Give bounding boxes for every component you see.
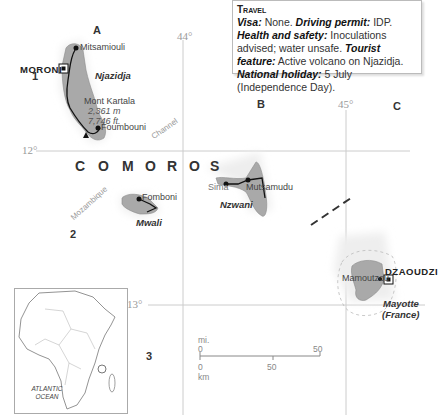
grid-col-c: C: [393, 100, 401, 112]
island-label-mwali: Mwali: [136, 217, 162, 228]
longitude-45-label: 45°: [338, 98, 353, 110]
country-label-o3: O: [189, 158, 200, 174]
scale-km-fifty: 50: [267, 362, 276, 372]
driving-permit-value: IDP.: [370, 16, 392, 28]
grid-row-3: 3: [146, 350, 152, 362]
peak-elevation-ft: 7,746 ft.: [88, 116, 121, 126]
scale-mi-zero: 0: [198, 344, 203, 354]
comoros-locator-circle: [98, 365, 106, 373]
visa-label: Visa:: [237, 16, 262, 28]
capital-label-dzaoudzi: DZAOUDZI: [385, 266, 438, 277]
island-label-mayotte: Mayotte: [383, 298, 419, 309]
scale-km-unit: km: [198, 372, 209, 382]
grid-col-b: B: [257, 98, 265, 110]
peak-label-mont-kartala: Mont Kartala: [84, 96, 135, 106]
town-label-mutsamudu: Mutsamudu: [246, 182, 293, 192]
island-label-mayotte-note: (France): [382, 309, 419, 320]
health-safety-label: Health and safety:: [237, 29, 327, 41]
country-label-o2: O: [145, 158, 156, 174]
island-label-nzwani: Nzwani: [220, 199, 253, 210]
town-label-sima: Sima: [208, 182, 229, 192]
capital-label-moroni: MORONI: [20, 64, 62, 75]
inset-ocean-label: ATLANTIC OCEAN: [27, 385, 67, 401]
grid-row-2: 2: [70, 228, 76, 240]
latitude-12-label: 12°: [22, 144, 37, 156]
grid-col-a: A: [93, 24, 101, 36]
island-label-njazidja: Njazidja: [95, 70, 131, 81]
country-label-o1: O: [98, 158, 109, 174]
town-label-mitsamiouli: Mitsamiouli: [80, 42, 125, 52]
town-label-mamoutzou: Mamoutzou: [342, 273, 389, 283]
scale-km-zero: 0: [198, 362, 203, 372]
tourist-feature-value: Active volcano on Njazidja.: [276, 55, 404, 67]
visa-value: None.: [262, 16, 296, 28]
country-label-s: S: [210, 158, 219, 174]
travel-info-box: Travel Visa: None. Driving permit: IDP. …: [232, 0, 422, 74]
africa-locator-inset: ATLANTIC OCEAN: [14, 288, 128, 414]
longitude-44-label: 44°: [177, 30, 192, 42]
peak-elevation-m: 2,361 m: [88, 106, 121, 116]
scale-mi-fifty: 50: [313, 344, 322, 354]
country-label-c: C: [75, 158, 85, 174]
latitude-13-label: 13°: [127, 298, 142, 310]
country-label-r: R: [167, 158, 177, 174]
national-holiday-label: National holiday:: [237, 68, 322, 80]
country-label-m: M: [122, 158, 134, 174]
maritime-boundary-line: [311, 196, 354, 225]
driving-permit-label: Driving permit:: [296, 16, 371, 28]
travel-title: Travel: [237, 3, 417, 16]
town-label-fomboni: Fomboni: [142, 192, 177, 202]
